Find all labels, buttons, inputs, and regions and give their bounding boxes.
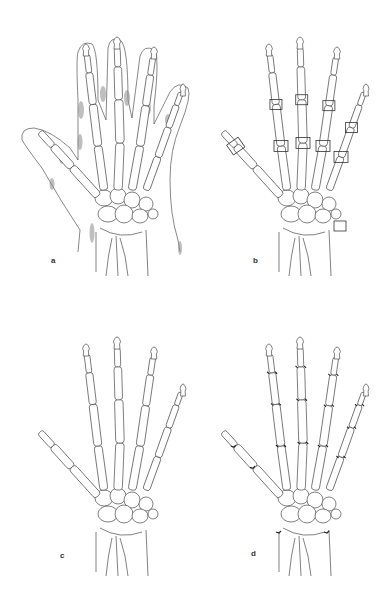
carpal-bone — [110, 188, 126, 204]
thumb-metacarpal — [252, 165, 284, 199]
metacarpal-little — [143, 156, 162, 191]
proximal-phalanx-little — [155, 126, 172, 158]
distal-phalanx-ring — [148, 57, 156, 75]
metacarpal-middle — [297, 143, 307, 190]
swelling-shade — [78, 101, 84, 119]
distal-phalanx-index — [267, 55, 275, 73]
carpal-bone — [293, 188, 309, 204]
hand-skeleton-figure — [0, 0, 388, 599]
forearm-bones — [96, 228, 148, 276]
fingertip-little — [180, 84, 186, 96]
middle-phalanx-middle — [114, 367, 123, 400]
distal-phalanx-middle — [114, 48, 120, 67]
hand-panel-b — [221, 37, 369, 276]
thumb-distal-phalanx — [38, 430, 56, 448]
thumb-proximal-phalanx — [233, 143, 258, 169]
distal-phalanx-index — [84, 55, 92, 73]
thumb-proximal-phalanx — [50, 143, 75, 169]
fingertip-middle — [113, 37, 120, 49]
forearm-bones — [96, 528, 148, 576]
proximal-phalanx-index — [89, 404, 102, 447]
middle-phalanx-index — [86, 72, 97, 105]
carpal-bone — [115, 205, 133, 223]
metacarpal-index — [277, 445, 291, 490]
proximal-phalanx-middle — [297, 100, 307, 144]
proximal-phalanx-little — [155, 426, 172, 458]
distal-phalanx-ring — [331, 57, 339, 75]
fingertip-little — [363, 384, 369, 396]
metacarpal-little — [326, 156, 345, 191]
carpal-bone — [298, 205, 316, 223]
fingertip-middle — [113, 337, 120, 349]
metacarpal-ring — [128, 445, 144, 490]
metacarpal-index — [94, 445, 108, 490]
fingertip-middle — [296, 337, 303, 349]
swelling-shade — [50, 178, 55, 190]
proximal-phalanx-little — [338, 126, 355, 158]
metacarpal-index — [94, 145, 108, 190]
thumb-proximal-phalanx — [50, 443, 75, 469]
panel-label-d: d — [251, 550, 256, 558]
metacarpal-index — [277, 145, 291, 190]
fingertip-little — [363, 84, 369, 96]
metacarpal-middle — [114, 443, 124, 490]
thumb-metacarpal — [69, 165, 101, 199]
carpal-bone — [110, 488, 126, 504]
fingertip-middle — [296, 37, 303, 49]
carpal-bone — [315, 209, 331, 223]
fingertip-ring — [151, 47, 158, 59]
middle-phalanx-little — [166, 404, 180, 429]
forearm-bones — [279, 528, 331, 576]
fingertip-little — [180, 384, 186, 396]
thumb-metacarpal — [252, 465, 284, 499]
middle-phalanx-little — [349, 104, 363, 129]
carpal-bone — [293, 488, 309, 504]
proximal-phalanx-ring — [136, 405, 150, 446]
carpal-bone — [148, 509, 158, 519]
carpal-bone — [132, 209, 148, 223]
hand-panel-a — [22, 37, 189, 276]
panel-label-b: b — [253, 257, 258, 265]
distal-phalanx-middle — [114, 348, 120, 367]
fingertip-index — [83, 344, 90, 356]
metacarpal-middle — [297, 443, 307, 490]
swelling-shade — [90, 223, 95, 243]
carpal-bone — [115, 505, 133, 523]
middle-phalanx-index — [269, 372, 280, 405]
proximal-phalanx-middle — [114, 400, 124, 444]
proximal-phalanx-middle — [297, 400, 307, 444]
proximal-phalanx-little — [338, 426, 355, 458]
middle-phalanx-ring — [325, 374, 337, 406]
middle-phalanx-index — [86, 372, 97, 405]
middle-phalanx-ring — [142, 74, 154, 106]
carpal-bone — [148, 209, 158, 219]
proximal-phalanx-index — [272, 404, 285, 447]
proximal-phalanx-ring — [136, 105, 150, 146]
fingertip-index — [266, 344, 273, 356]
swelling-shade — [78, 134, 83, 150]
ulnar-styloid-box — [334, 221, 346, 231]
distal-phalanx-middle — [297, 348, 303, 367]
distal-phalanx-ring — [331, 357, 339, 375]
metacarpal-little — [326, 456, 345, 491]
fingertip-index — [266, 44, 273, 56]
metacarpal-little — [143, 456, 162, 491]
carpal-bone — [315, 509, 331, 523]
middle-phalanx-middle — [297, 367, 306, 400]
metacarpal-ring — [128, 145, 144, 190]
swelling-shade — [124, 90, 130, 106]
fingertip-ring — [151, 347, 158, 359]
joint-erosion-mark — [276, 531, 281, 533]
distal-phalanx-ring — [148, 357, 156, 375]
forearm-bones — [279, 228, 331, 276]
joint-erosion-mark — [324, 531, 329, 533]
carpal-bone — [331, 509, 341, 519]
hand-panel-d — [221, 337, 369, 576]
metacarpal-ring — [311, 145, 327, 190]
thumb-distal-phalanx — [38, 130, 56, 148]
hand-panel-c — [38, 337, 186, 576]
distal-phalanx-index — [84, 355, 92, 373]
thumb-proximal-phalanx — [233, 443, 258, 469]
swelling-shade — [178, 241, 182, 255]
metacarpal-ring — [311, 445, 327, 490]
